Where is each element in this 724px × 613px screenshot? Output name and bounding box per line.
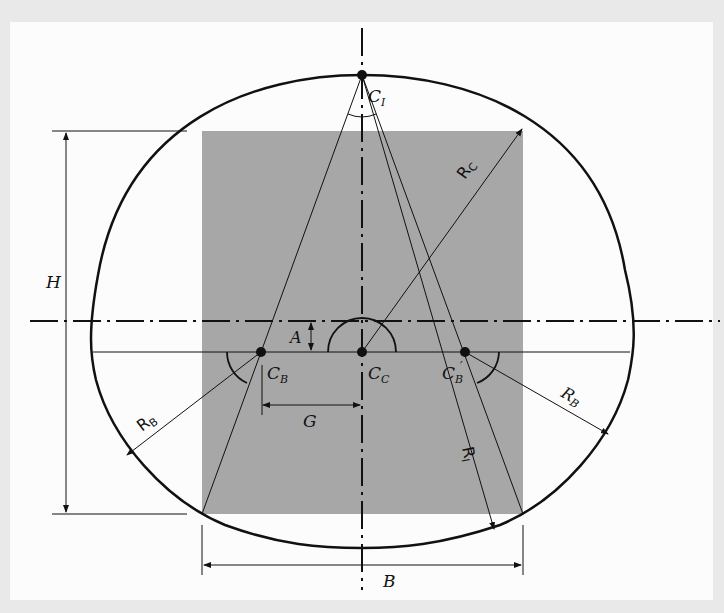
label-h: H [45, 272, 62, 292]
label-b: B [382, 571, 396, 591]
point-c-c [357, 347, 367, 357]
h-dimension [52, 131, 187, 514]
point-c-b-prime [460, 347, 470, 357]
point-c-b [256, 347, 266, 357]
label-c-i: CI [368, 86, 386, 109]
label-c-b-prime: CB′ [442, 360, 463, 386]
tunnel-diagram: CI CC CB CB′ RC RI RB RB H A G B [0, 0, 724, 613]
label-a: A [288, 328, 302, 347]
label-g: G [303, 411, 317, 431]
point-c-i [357, 70, 367, 80]
